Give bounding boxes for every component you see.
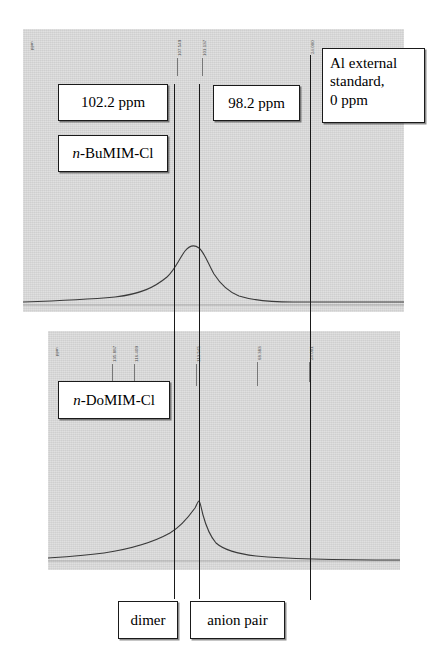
callout-text: n-BuMIM-Cl — [73, 144, 154, 162]
callout-text-block: Al external standard, 0 ppm — [330, 54, 397, 109]
tick-line — [202, 58, 203, 76]
tick-label: 24.000 — [310, 40, 315, 54]
guide-line-standard — [310, 55, 311, 600]
tick-line — [196, 364, 197, 386]
al-standard-line-3: 0 ppm — [330, 91, 397, 109]
callout-assignment-dimer[interactable]: dimer — [118, 601, 178, 639]
callout-shift-anion-pair[interactable]: 98.2 ppm — [213, 85, 300, 121]
tick-label: 101.137 — [202, 40, 207, 56]
callout-text: dimer — [131, 611, 166, 629]
callout-text: n-DoMIM-Cl — [73, 391, 155, 409]
tick-label: 107.549 — [177, 40, 182, 56]
spectrum-trace-bottom — [48, 331, 400, 570]
callout-text: 102.2 ppm — [81, 93, 145, 111]
callout-sample-bumim[interactable]: n-BuMIM-Cl — [58, 135, 168, 172]
guide-line-anion-pair — [199, 84, 200, 599]
tick-line — [177, 58, 178, 76]
al-standard-line-2: standard, — [330, 72, 397, 90]
guide-line-dimer — [174, 84, 175, 599]
tick-label: 135.887 — [112, 346, 117, 362]
tick-line — [257, 362, 258, 386]
tick-label: ppm — [54, 347, 59, 356]
callout-shift-dimer[interactable]: 102.2 ppm — [58, 84, 168, 121]
callout-text: anion pair — [207, 611, 267, 629]
callout-assignment-anion-pair[interactable]: anion pair — [190, 601, 285, 639]
tick-label: ppm — [29, 41, 34, 50]
tick-label: 68.383 — [257, 346, 262, 360]
nmr-figure: ppm 107.549 101.137 24.000 ppm 135.887 — [0, 0, 446, 665]
callout-al-standard[interactable]: Al external standard, 0 ppm — [322, 48, 425, 123]
callout-sample-domim[interactable]: n-DoMIM-Cl — [58, 381, 170, 419]
callout-text: 98.2 ppm — [228, 94, 285, 112]
spectrum-panel-bottom — [48, 331, 400, 570]
tick-label: 116.409 — [134, 346, 139, 362]
al-standard-line-1: Al external — [330, 54, 397, 72]
